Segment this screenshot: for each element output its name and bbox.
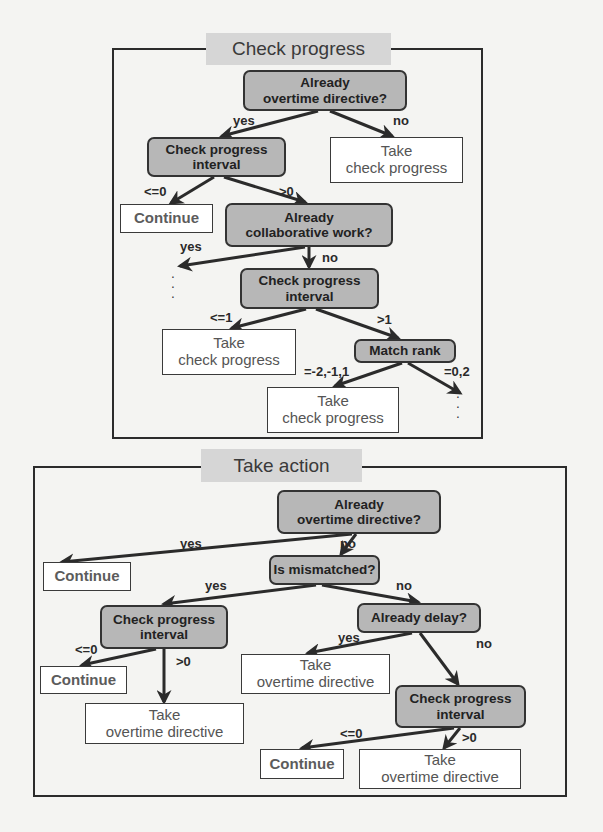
ta-continue-action-2: Continue [40,666,127,694]
ta-edge-label-no-3: no [476,636,492,651]
ta-edge-label-no-2: no [396,578,412,593]
ta-check-progress-interval-decision-2: Check progress interval [395,685,526,728]
cp-edge-label-le1: <=1 [210,310,232,325]
ta-edge-label-no-1: no [340,536,356,551]
cp-take-check-progress-action-3: Take check progress [267,387,399,433]
cp-edge-label-gt0: >0 [279,184,294,199]
ta-check-progress-interval-decision-1: Check progress interval [100,605,228,649]
cp-edge-label-le0: <=0 [144,184,166,199]
ta-edge-label-yes-1: yes [180,536,202,551]
ta-edge-label-le0-2: <=0 [340,726,362,741]
cp-check-progress-interval-decision-1: Check progress interval [147,137,286,177]
ta-continue-action-3: Continue [260,749,344,779]
cp-ellipsis-right: ··· [456,393,460,423]
take-action-title: Take action [201,449,362,482]
ta-edge-label-gt0-1: >0 [176,654,191,669]
ta-is-mismatched-decision: Is mismatched? [269,555,380,585]
ta-edge-label-yes-3: yes [338,630,360,645]
cp-edge-label-rank-a: =-2,-1,1 [304,364,349,379]
cp-edge-label-rank-b: =0,2 [444,364,470,379]
cp-continue-action: Continue [120,204,213,233]
cp-edge-label-yes-1: yes [233,113,255,128]
ta-edge-label-gt0-2: >0 [462,730,477,745]
cp-take-check-progress-action-1: Take check progress [330,137,463,183]
ta-continue-action-1: Continue [43,562,131,591]
cp-edge-label-gt1: >1 [377,312,392,327]
ta-take-overtime-action-1: Take overtime directive [241,654,390,694]
ta-take-overtime-action-2: Take overtime directive [85,703,244,744]
ta-edge-label-le0-1: <=0 [75,642,97,657]
cp-edge-label-no-1: no [393,113,409,128]
check-progress-title: Check progress [206,33,391,65]
ta-take-overtime-action-3: Take overtime directive [359,749,521,789]
cp-edge-label-yes-2: yes [180,239,202,254]
cp-ellipsis-left: ··· [171,273,175,303]
cp-take-check-progress-action-2: Take check progress [162,329,296,375]
cp-already-collaborative-decision: Already collaborative work? [225,203,393,247]
ta-already-delay-decision: Already delay? [357,603,481,633]
cp-already-overtime-decision: Already overtime directive? [243,70,407,111]
ta-already-overtime-decision: Already overtime directive? [277,490,441,534]
ta-edge-label-yes-2: yes [205,578,227,593]
cp-match-rank-decision: Match rank [354,339,456,363]
cp-check-progress-interval-decision-2: Check progress interval [240,268,379,309]
cp-edge-label-no-2: no [322,250,338,265]
